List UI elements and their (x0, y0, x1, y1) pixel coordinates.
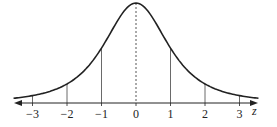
x-tick-label: −1 (95, 107, 108, 121)
density-chart: −3−2−10123 z (0, 0, 277, 127)
x-tick-label: 1 (168, 107, 174, 121)
x-ticks: −3−2−10123 (26, 103, 242, 121)
z-axis-label: z (251, 104, 257, 118)
x-tick-label: −3 (26, 107, 39, 121)
x-tick-label: −2 (61, 107, 74, 121)
x-tick-label: 3 (237, 107, 243, 121)
left-arrow-icon (14, 100, 22, 106)
x-tick-label: 0 (133, 107, 139, 121)
x-tick-label: 2 (202, 107, 208, 121)
